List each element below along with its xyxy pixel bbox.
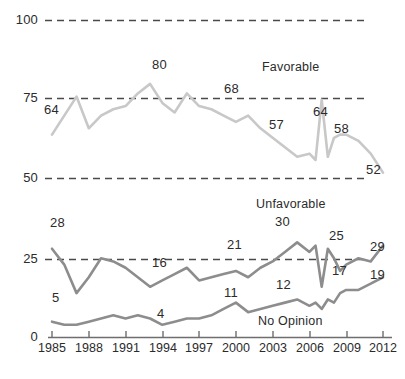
x-axis bbox=[48, 331, 392, 338]
x-tick-label-2003: 2003 bbox=[253, 341, 293, 355]
x-tick-label-1985: 1985 bbox=[32, 341, 72, 355]
x-tick-label-2000: 2000 bbox=[216, 341, 256, 355]
chart-canvas bbox=[0, 0, 405, 379]
x-tick-label-2012: 2012 bbox=[363, 341, 403, 355]
point-label-noop-12: 12 bbox=[276, 277, 291, 292]
point-label-noop-17: 17 bbox=[332, 263, 347, 278]
point-label-unf-30: 30 bbox=[275, 214, 290, 229]
point-label-noop-19: 19 bbox=[370, 267, 385, 282]
series-label-unfavorable: Unfavorable bbox=[256, 197, 326, 211]
point-label-fav-64-right: 64 bbox=[313, 104, 328, 119]
x-tick-label-2006: 2006 bbox=[290, 341, 330, 355]
point-label-fav-57: 57 bbox=[269, 117, 284, 132]
x-tick-label-1997: 1997 bbox=[179, 341, 219, 355]
point-label-unf-25: 25 bbox=[329, 228, 344, 243]
point-label-fav-52: 52 bbox=[366, 162, 381, 177]
series-label-favorable: Favorable bbox=[262, 60, 319, 74]
point-label-unf-21: 21 bbox=[227, 237, 242, 252]
point-label-noop-5: 5 bbox=[52, 290, 59, 305]
point-label-fav-80: 80 bbox=[152, 57, 167, 72]
x-tick-label-1994: 1994 bbox=[143, 341, 183, 355]
x-tick-label-1988: 1988 bbox=[69, 341, 109, 355]
point-label-fav-68: 68 bbox=[224, 81, 239, 96]
y-tick-label-100: 100 bbox=[4, 12, 38, 27]
line-chart: 100 75 50 25 0 1985 1988 1991 1994 1997 … bbox=[0, 0, 405, 379]
y-tick-label-25: 25 bbox=[4, 251, 38, 266]
point-label-unf-16: 16 bbox=[152, 255, 167, 270]
series-label-no-opinion: No Opinion bbox=[258, 314, 323, 328]
y-tick-label-75: 75 bbox=[4, 90, 38, 105]
point-label-noop-11: 11 bbox=[224, 285, 238, 300]
point-label-fav-64-left: 64 bbox=[44, 102, 59, 117]
x-tick-label-1991: 1991 bbox=[106, 341, 146, 355]
point-label-unf-29: 29 bbox=[370, 239, 385, 254]
series-line-no-opinion bbox=[52, 277, 383, 325]
point-label-unf-28: 28 bbox=[50, 215, 65, 230]
x-tick-label-2009: 2009 bbox=[327, 341, 367, 355]
point-label-noop-4: 4 bbox=[157, 306, 164, 321]
point-label-fav-58: 58 bbox=[334, 121, 349, 136]
y-tick-label-50: 50 bbox=[4, 170, 38, 185]
